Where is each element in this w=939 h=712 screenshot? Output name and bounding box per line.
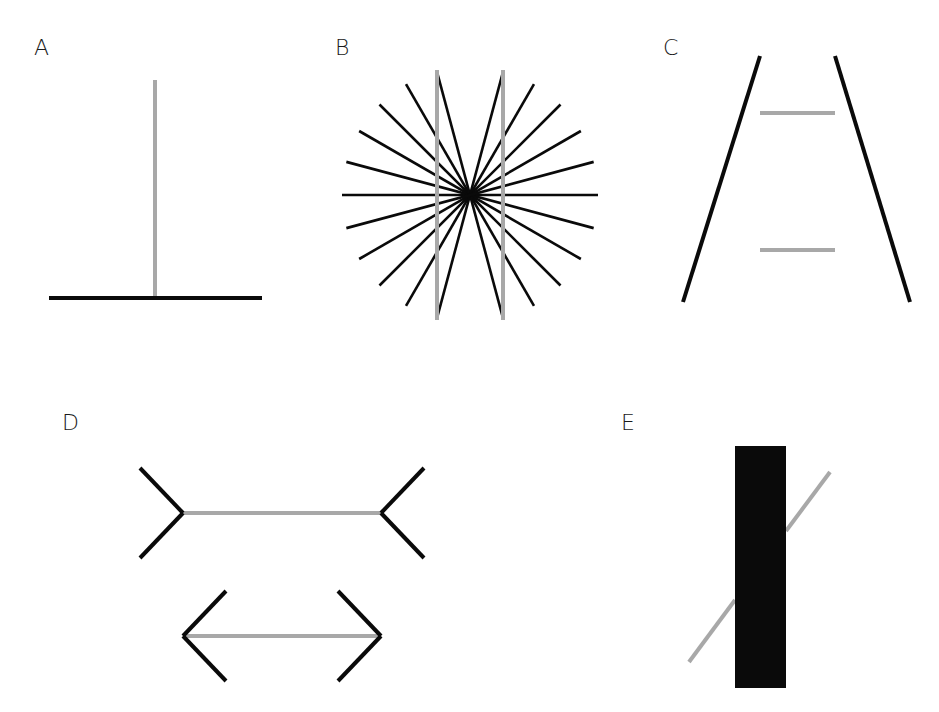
panel-label-c: C [663, 35, 678, 60]
bottom-fin-line [183, 591, 226, 636]
panel-a-vertical-horizontal: A [34, 35, 262, 298]
panel-label-a: A [34, 35, 49, 60]
bottom-fin-line [338, 636, 381, 681]
bottom-fin-line [338, 591, 381, 636]
slanted-black-line [683, 56, 760, 302]
panel-label-e: E [621, 410, 635, 435]
top-fin-line [381, 468, 424, 513]
horizontal-gray-bars [760, 113, 835, 250]
panel-d-muller-lyer: D [62, 410, 424, 681]
slanted-black-line [835, 56, 910, 302]
radiating-rays [342, 71, 598, 318]
panel-label-d: D [62, 410, 79, 435]
occluding-black-rectangle [735, 446, 786, 688]
top-fin-line [381, 513, 424, 558]
converging-black-lines [683, 56, 910, 302]
panel-c-ponzo: C [663, 35, 910, 302]
top-fin-line [140, 468, 183, 513]
gray-diagonal-segment [786, 472, 830, 531]
gray-diagonal-segment [689, 600, 735, 662]
panel-b-hering: B [335, 35, 598, 320]
panel-e-poggendorff: E [621, 410, 830, 688]
arrow-figures [140, 468, 424, 681]
top-fin-line [140, 513, 183, 558]
panel-label-b: B [335, 35, 349, 60]
illusions-figure: A B C D E [0, 0, 939, 712]
bottom-fin-line [183, 636, 226, 681]
